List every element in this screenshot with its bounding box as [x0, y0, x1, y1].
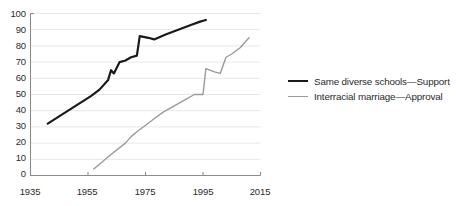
line-chart: 100 90 80 70 60 50 40 30 20 10 0 1935 19… [0, 0, 456, 206]
legend-swatch-approval-icon [288, 96, 308, 97]
legend-item-interracial-marriage: Interracial marriage—Approval [288, 89, 443, 103]
legend-item-same-diverse-schools: Same diverse schools—Support [288, 74, 450, 88]
legend-swatch-support-icon [288, 80, 308, 82]
legend-label-approval: Interracial marriage—Approval [314, 91, 443, 102]
legend-label-support: Same diverse schools—Support [314, 76, 450, 87]
gridlines [31, 14, 261, 160]
plot-area [0, 0, 456, 206]
